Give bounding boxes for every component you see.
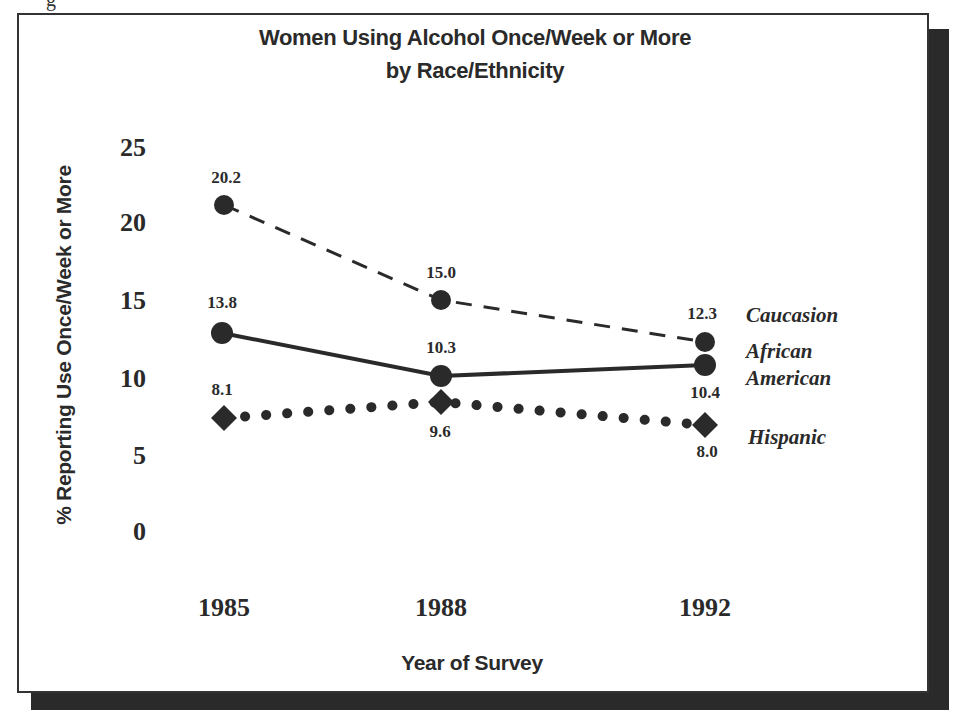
x-axis-title: Year of Survey (401, 651, 543, 674)
series-caucasion: 20.2 15.0 12.3 (211, 168, 717, 352)
data-point-marker (695, 332, 715, 352)
caucasion-line (224, 205, 705, 342)
data-point-marker (431, 290, 451, 310)
y-tick: 10 (120, 364, 146, 393)
chart-title: Women Using Alcohol Once/Week or More (259, 25, 691, 50)
data-label: 9.6 (429, 422, 450, 441)
data-label: 12.3 (687, 304, 717, 323)
y-tick: 15 (120, 286, 146, 315)
y-tick: 0 (133, 517, 146, 546)
y-tick: 5 (133, 441, 146, 470)
data-label: 8.1 (211, 380, 232, 399)
legend-caucasion: Caucasion (746, 303, 838, 327)
series-african-american: 13.8 10.3 10.4 (207, 293, 720, 402)
series-hispanic: 8.1 9.6 8.0 (211, 380, 718, 461)
x-tick: 1985 (198, 593, 250, 622)
diamond-marker (428, 389, 454, 415)
legend: Caucasion African American Hispanic (744, 303, 838, 449)
y-tick: 25 (120, 133, 146, 162)
data-label: 13.8 (207, 293, 237, 312)
data-point-marker (694, 354, 716, 376)
data-point-marker (214, 195, 234, 215)
legend-african: African (744, 339, 813, 363)
y-axis-ticks: 25 20 15 10 5 0 (120, 133, 146, 546)
chart-subtitle: by Race/Ethnicity (386, 58, 565, 83)
y-tick: 20 (120, 208, 146, 237)
legend-hispanic: Hispanic (747, 425, 827, 449)
data-label: 15.0 (426, 263, 456, 282)
hispanic-line (224, 402, 705, 425)
x-tick: 1992 (679, 593, 731, 622)
x-tick: 1988 (415, 593, 467, 622)
data-label: 20.2 (211, 168, 241, 187)
data-label: 10.4 (690, 383, 720, 402)
data-point-marker (211, 322, 233, 344)
african-american-line (222, 333, 705, 376)
data-label: 10.3 (426, 338, 456, 357)
diamond-marker (692, 412, 718, 438)
data-label: 8.0 (696, 442, 717, 461)
chart-canvas: Women Using Alcohol Once/Week or More by… (0, 0, 956, 715)
y-axis-title: % Reporting Use Once/Week or More (52, 165, 75, 525)
x-axis-ticks: 1985 1988 1992 (198, 593, 731, 622)
legend-american: American (744, 366, 831, 390)
diamond-marker (211, 405, 237, 431)
data-point-marker (430, 365, 452, 387)
